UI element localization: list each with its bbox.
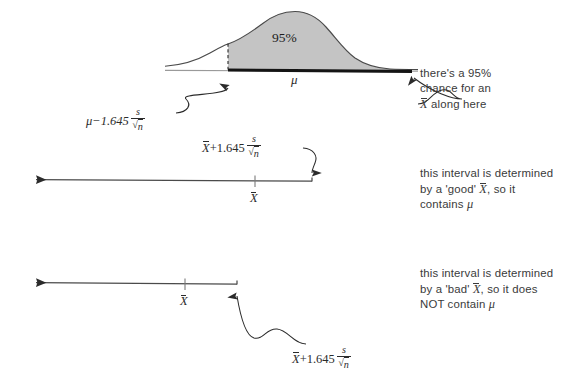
good-interval-callout-arrow bbox=[303, 148, 316, 173]
bottom-right-mu-symbol: μ bbox=[489, 297, 495, 311]
bottom-right-line-3a: NOT contain bbox=[420, 298, 489, 310]
bad-interval-panel bbox=[36, 279, 306, 345]
middle-right-xbar-symbol: X bbox=[479, 181, 487, 197]
good-interval-xbar-label: X bbox=[250, 190, 258, 206]
lower-bound-callout-arrow bbox=[176, 88, 228, 113]
lower-bound-denominator-radicand: n bbox=[138, 119, 143, 132]
lower-bound-formula: μ−1.645sn bbox=[86, 106, 145, 132]
bottom-right-annotation: this interval is determined by a 'bad' X… bbox=[420, 266, 553, 313]
bottom-right-line-2b: , so it does bbox=[481, 283, 538, 295]
lower-bound-numerator: s bbox=[131, 106, 145, 118]
middle-right-line-3a: contains bbox=[420, 198, 467, 210]
good-formula-denominator: n bbox=[247, 145, 261, 159]
bottom-right-line-1: this interval is determined bbox=[420, 267, 553, 279]
shaded-area-percent-label: 95% bbox=[272, 30, 297, 46]
good-formula-xbar-symbol: X bbox=[202, 140, 210, 156]
bad-formula-denominator: n bbox=[337, 356, 351, 370]
bottom-right-line-2a: by a 'bad' bbox=[420, 283, 473, 295]
lower-bound-formula-lead: μ−1.645 bbox=[86, 114, 129, 128]
middle-right-mu-symbol: μ bbox=[467, 197, 473, 211]
good-formula-fraction: sn bbox=[247, 133, 261, 159]
middle-right-annotation: this interval is determined by a 'good' … bbox=[420, 166, 553, 213]
middle-right-line-2a: by a 'good' bbox=[420, 183, 479, 195]
bad-formula-fraction: sn bbox=[337, 344, 351, 370]
good-interval-line bbox=[36, 180, 312, 182]
bad-formula-xbar-symbol: X bbox=[292, 351, 300, 367]
lower-bound-denominator: n bbox=[131, 118, 145, 132]
middle-right-line-2b: , so it bbox=[487, 183, 515, 195]
bad-formula-denominator-radicand: n bbox=[344, 357, 349, 370]
distribution-shaded-area bbox=[228, 12, 412, 70]
mu-label: μ bbox=[291, 72, 298, 88]
shaded-region-thick-baseline bbox=[228, 70, 412, 71]
good-formula-denominator-radicand: n bbox=[254, 146, 259, 159]
top-right-line-1: there's a 95% bbox=[420, 67, 491, 79]
top-right-line-3-rest: along here bbox=[428, 98, 487, 110]
middle-right-line-1: this interval is determined bbox=[420, 167, 553, 179]
bottom-right-xbar-symbol: X bbox=[473, 281, 481, 297]
top-right-xbar-symbol: X bbox=[420, 96, 428, 112]
confidence-interval-diagram: 95% μ μ−1.645sn there's a 95% chance for… bbox=[0, 0, 572, 380]
bad-interval-xbar-label: X bbox=[180, 293, 188, 309]
bad-interval-callout-arrow bbox=[237, 296, 306, 344]
good-interval-panel bbox=[36, 148, 316, 187]
bad-interval-line bbox=[36, 283, 237, 285]
top-right-annotation: there's a 95% chance for an X along here bbox=[420, 66, 491, 113]
good-formula-numerator: s bbox=[247, 133, 261, 145]
bad-interval-upper-bound-formula: X+1.645sn bbox=[292, 344, 351, 370]
lower-bound-fraction: sn bbox=[131, 106, 145, 132]
good-interval-upper-bound-formula: X+1.645sn bbox=[202, 133, 261, 159]
good-formula-lead-rest: +1.645 bbox=[210, 141, 245, 155]
bad-formula-lead-rest: +1.645 bbox=[300, 352, 335, 366]
sampling-distribution-panel bbox=[165, 12, 462, 114]
top-right-line-2: chance for an bbox=[420, 82, 491, 94]
bad-formula-numerator: s bbox=[337, 344, 351, 356]
